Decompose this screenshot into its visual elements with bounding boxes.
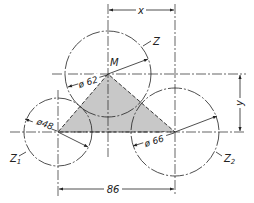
technical-drawing: x y 86 ø 62 ø48 ø 66 M Z Z1 Z2 [0,0,254,203]
x-dimension-label: x [137,5,144,16]
radius-arrow-z2 [175,116,217,132]
base-dimension-label: 86 [107,184,120,195]
circle-label-z: Z [152,36,161,47]
shaded-triangle [58,74,175,132]
radius-arrow-z1 [58,132,88,147]
point-label-m: M [110,57,119,68]
circle-label-z1: Z1 [9,153,21,166]
y-dimension-label: y [234,99,245,107]
diameter-label-z1: ø48 [34,116,55,132]
drawing-svg: x y 86 ø 62 ø48 ø 66 M Z Z1 Z2 [0,0,254,203]
diameter-label-z2: ø 66 [142,133,165,149]
circle-label-z2: Z2 [223,153,236,166]
